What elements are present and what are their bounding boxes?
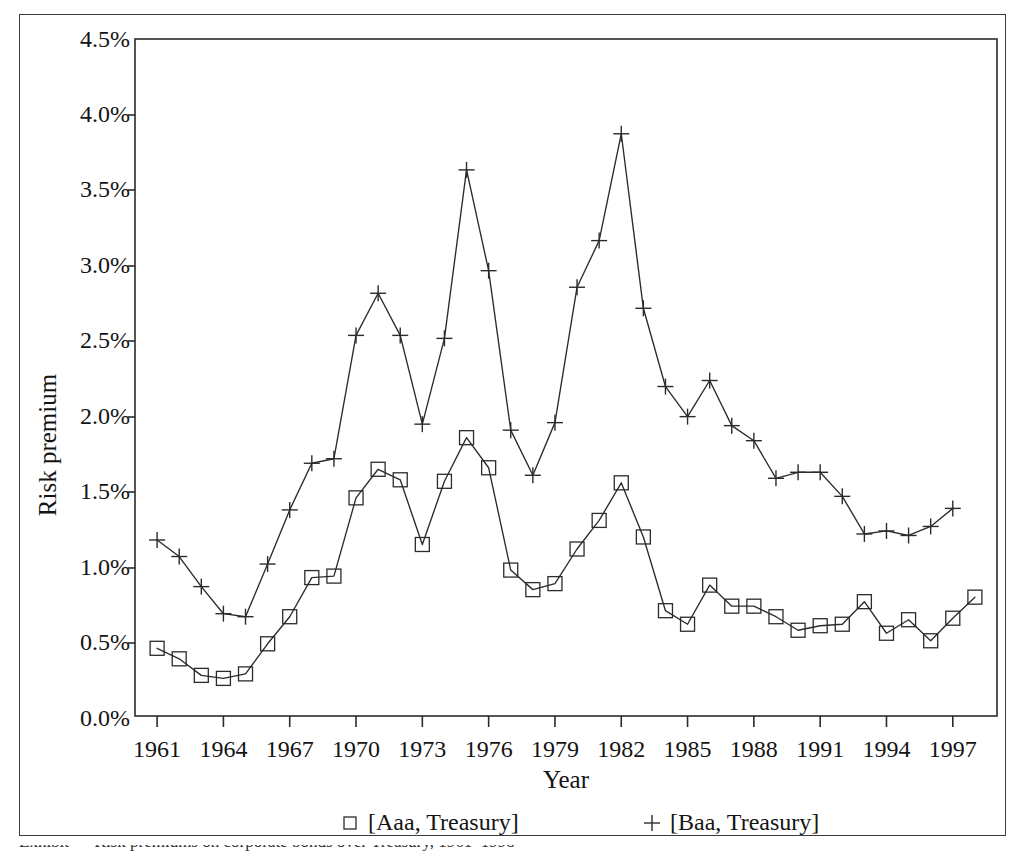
y-tick-label: 0.5% xyxy=(80,629,130,655)
y-tick-label: 1.5% xyxy=(80,478,130,504)
x-axis-tick-labels: 1961196419671970197319761979198219851988… xyxy=(133,736,977,762)
data-series-layer xyxy=(149,126,982,686)
x-tick-label: 1979 xyxy=(531,736,579,762)
y-tick-label: 1.0% xyxy=(80,554,130,580)
figure-frame: Risk premium 4.5% 4.0% 3.5% 3.0% 2.5% 2.… xyxy=(19,14,1006,836)
y-tick-label: 2.0% xyxy=(80,403,130,429)
plot-area-frame xyxy=(135,39,997,716)
x-axis-title: Year xyxy=(543,766,590,793)
y-axis-title: Risk premium xyxy=(34,373,61,516)
legend-label: [Aaa, Treasury] xyxy=(368,809,519,835)
x-tick-label: 1976 xyxy=(465,736,513,762)
y-tick-label: 3.0% xyxy=(80,252,130,278)
x-tick-label: 1985 xyxy=(664,736,712,762)
y-tick-label: 4.0% xyxy=(80,101,130,127)
series-baa-treasury xyxy=(149,126,961,625)
x-tick-label: 1988 xyxy=(730,736,778,762)
legend-label: [Baa, Treasury] xyxy=(670,809,819,835)
risk-premium-line-chart: Risk premium 4.5% 4.0% 3.5% 3.0% 2.5% 2.… xyxy=(20,15,1005,835)
x-tick-label: 1997 xyxy=(929,736,977,762)
x-axis-ticks xyxy=(157,716,953,727)
x-tick-label: 1982 xyxy=(597,736,645,762)
series-polyline xyxy=(157,438,975,679)
x-tick-label: 1961 xyxy=(133,736,181,762)
bottom-caption-text: Exhibit — Risk premiums on corporate bon… xyxy=(19,845,515,852)
chart-legend: [Aaa, Treasury][Baa, Treasury] xyxy=(344,809,819,835)
x-tick-label: 1970 xyxy=(332,736,380,762)
x-tick-label: 1991 xyxy=(796,736,844,762)
y-tick-label: 4.5% xyxy=(80,26,130,52)
y-tick-label: 2.5% xyxy=(80,327,130,353)
legend-square-marker-icon xyxy=(344,817,356,829)
x-tick-label: 1973 xyxy=(398,736,446,762)
series-polyline xyxy=(157,134,953,617)
y-tick-label: 3.5% xyxy=(80,176,130,202)
y-axis-tick-labels: 4.5% 4.0% 3.5% 3.0% 2.5% 2.0% 1.5% 1.0% … xyxy=(80,26,130,731)
y-tick-label: 0.0% xyxy=(80,705,130,731)
bottom-caption-strip: Exhibit — Risk premiums on corporate bon… xyxy=(19,845,1006,857)
series-aaa-treasury xyxy=(150,431,982,686)
x-tick-label: 1967 xyxy=(266,736,314,762)
x-tick-label: 1994 xyxy=(862,736,910,762)
x-tick-label: 1964 xyxy=(199,736,247,762)
